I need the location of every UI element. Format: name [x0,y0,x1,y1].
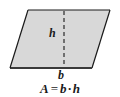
area-formula: A=b·h [0,82,120,95]
formula-equals-sign: = [49,81,60,96]
parallelogram-area-figure: h b A=b·h [0,0,120,97]
height-label: h [49,27,56,39]
base-label: b [58,69,64,81]
formula-height-symbol: h [73,81,80,96]
formula-area-symbol: A [40,81,49,96]
